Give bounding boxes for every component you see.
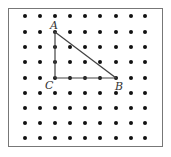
grid-dot — [129, 136, 133, 140]
grid-dot — [114, 60, 118, 64]
grid-dot — [83, 45, 87, 49]
grid-dot — [83, 30, 87, 34]
grid-dot — [68, 106, 72, 110]
grid-dot — [83, 136, 87, 140]
grid-dot — [68, 121, 72, 125]
grid-dot — [68, 30, 72, 34]
grid-dot — [23, 106, 27, 110]
grid-dot — [143, 45, 147, 49]
grid-dot — [53, 121, 57, 125]
grid-dot — [98, 30, 102, 34]
grid-dot — [23, 14, 27, 18]
grid-dot — [53, 106, 57, 110]
grid-dot — [38, 60, 42, 64]
grid-dot — [114, 45, 118, 49]
grid-dot — [38, 14, 42, 18]
grid-dot — [83, 106, 87, 110]
grid-dot — [143, 121, 147, 125]
grid-dot — [68, 60, 72, 64]
grid-dot — [23, 45, 27, 49]
grid-dot — [129, 30, 133, 34]
grid-dot — [83, 60, 87, 64]
grid-dot — [98, 60, 102, 64]
grid-dot — [38, 91, 42, 95]
grid-dot — [143, 91, 147, 95]
grid-dot — [98, 91, 102, 95]
grid-dot — [53, 14, 57, 18]
grid-dot — [114, 14, 118, 18]
grid-dot — [23, 30, 27, 34]
right-triangle-abc — [55, 32, 116, 78]
grid-dot — [83, 91, 87, 95]
grid-dot — [114, 106, 118, 110]
grid-dot — [143, 106, 147, 110]
grid-dot — [143, 14, 147, 18]
grid-dot — [129, 91, 133, 95]
dot-grid — [23, 14, 147, 140]
vertex-label-b: B — [114, 80, 123, 93]
dot-grid-diagram: ABC — [0, 0, 171, 157]
grid-dot — [38, 136, 42, 140]
grid-dot — [114, 30, 118, 34]
grid-dot — [23, 91, 27, 95]
grid-dot — [143, 60, 147, 64]
grid-dot — [98, 14, 102, 18]
grid-dot — [143, 76, 147, 80]
grid-dot — [38, 106, 42, 110]
grid-dot — [53, 136, 57, 140]
grid-dot — [129, 121, 133, 125]
grid-dot — [68, 14, 72, 18]
grid-dot — [129, 45, 133, 49]
grid-dot — [38, 76, 42, 80]
grid-dot — [53, 91, 57, 95]
grid-dot — [83, 14, 87, 18]
grid-dot — [83, 121, 87, 125]
grid-dot — [38, 121, 42, 125]
grid-dot — [68, 45, 72, 49]
grid-dot — [143, 30, 147, 34]
grid-dot — [98, 136, 102, 140]
vertex-labels: ABC — [45, 19, 123, 93]
grid-dot — [98, 106, 102, 110]
grid-dot — [68, 136, 72, 140]
grid-dot — [23, 76, 27, 80]
grid-dot — [38, 30, 42, 34]
vertex-label-c: C — [45, 79, 54, 92]
grid-dot — [23, 136, 27, 140]
grid-dot — [68, 91, 72, 95]
grid-dot — [129, 106, 133, 110]
grid-dot — [114, 121, 118, 125]
grid-dot — [129, 14, 133, 18]
grid-dot — [114, 136, 118, 140]
grid-dot — [98, 121, 102, 125]
grid-dot — [38, 45, 42, 49]
vertex-label-a: A — [49, 19, 58, 32]
grid-dot — [129, 76, 133, 80]
grid-dot — [23, 60, 27, 64]
grid-dot — [23, 121, 27, 125]
grid-dot — [143, 136, 147, 140]
grid-dot — [98, 45, 102, 49]
grid-dot — [129, 60, 133, 64]
